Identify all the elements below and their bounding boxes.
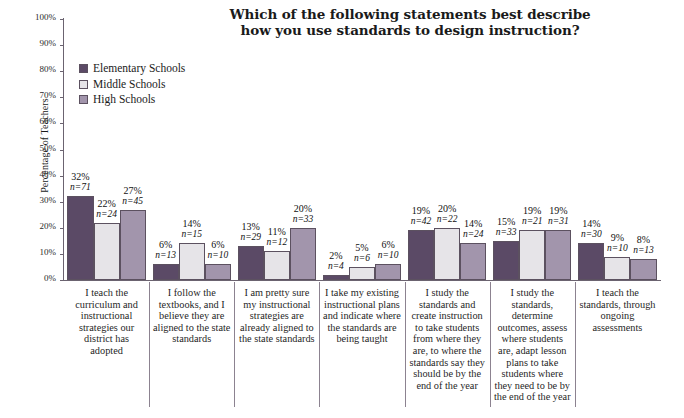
bar [408, 230, 434, 280]
y-tick-label: 0% [44, 273, 56, 283]
x-axis-line [63, 280, 661, 281]
y-tick-mark [60, 280, 64, 281]
bar-count-label: n=13 [624, 245, 662, 256]
category-label: I am pretty sure my instructional strate… [237, 282, 316, 345]
bar [630, 259, 656, 280]
bar-percent-label: 14% [173, 218, 211, 229]
bar [94, 223, 120, 280]
category-separator [490, 282, 491, 407]
y-tick-label: 90% [40, 38, 57, 48]
bar [519, 230, 545, 280]
category-label: I follow the textbooks, and I believe th… [152, 282, 231, 345]
bar-count-label: n=71 [61, 182, 99, 193]
x-axis-category-labels: I teach the curriculum and instructional… [64, 282, 660, 418]
category-label: I teach the standards, through ongoing a… [578, 282, 657, 333]
y-tick-label: 60% [40, 116, 57, 126]
y-tick-label: 100% [35, 12, 56, 22]
bar [264, 251, 290, 280]
category-separator [319, 282, 320, 407]
bar [153, 264, 179, 280]
bar [545, 230, 571, 280]
bar [238, 246, 264, 280]
category-label: I take my existing instructional plans a… [322, 282, 401, 345]
category-separator [405, 282, 406, 407]
y-tick-label: 20% [40, 221, 57, 231]
bar [493, 241, 519, 280]
y-tick-label: 50% [40, 143, 57, 153]
bar-count-label: n=45 [114, 196, 152, 207]
bar [120, 210, 146, 280]
bar-percent-label: 19% [539, 205, 577, 216]
bar-percent-label: 14% [572, 218, 610, 229]
bar-percent-label: 32% [61, 171, 99, 182]
category-label: I study the standards, determine outcome… [493, 282, 572, 403]
bar-count-label: n=33 [284, 214, 322, 225]
bar-percent-label: 8% [624, 234, 662, 245]
bar-percent-label: 20% [284, 203, 322, 214]
bar-percent-label: 27% [114, 185, 152, 196]
y-tick-label: 80% [40, 64, 57, 74]
bar [460, 243, 486, 280]
category-label: I study the standards and create instruc… [408, 282, 487, 391]
y-tick-label: 10% [40, 247, 57, 257]
category-separator [149, 282, 150, 407]
bar-percent-label: 6% [369, 239, 407, 250]
category-label: I teach the curriculum and instructional… [67, 282, 146, 357]
bar [323, 275, 349, 280]
bar-count-label: n=10 [369, 250, 407, 261]
bar [290, 228, 316, 280]
y-tick-label: 40% [40, 169, 57, 179]
bar [604, 257, 630, 280]
bar [375, 264, 401, 280]
bar-percent-label: 20% [428, 203, 466, 214]
category-separator [234, 282, 235, 407]
y-tick-label: 30% [40, 195, 57, 205]
bar [205, 264, 231, 280]
bar [349, 267, 375, 280]
bar-chart: Which of the following statements best d… [0, 0, 684, 418]
category-separator [575, 282, 576, 407]
y-tick-label: 70% [40, 90, 57, 100]
bar-count-label: n=10 [199, 250, 237, 261]
